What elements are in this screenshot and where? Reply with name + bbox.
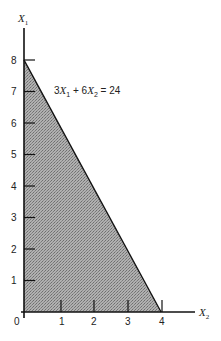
x-tick-labels: 0 1 2 3 4: [14, 316, 165, 327]
svg-text:1: 1: [11, 275, 17, 286]
constraint-equation-label: 3X1 + 6X2 = 24: [54, 84, 121, 98]
svg-text:5: 5: [11, 149, 17, 160]
lp-feasible-region-chart: 1 2 3 4 5 6 7 8 0 1 2 3 4 X1 X2 3X1 + 6X…: [0, 0, 221, 341]
svg-text:1: 1: [59, 316, 65, 327]
svg-text:2: 2: [11, 244, 17, 255]
svg-text:6: 6: [11, 118, 17, 129]
svg-text:8: 8: [11, 55, 17, 66]
y-axis-label: X1: [17, 12, 29, 27]
svg-text:3: 3: [125, 316, 131, 327]
svg-text:7: 7: [11, 86, 17, 97]
svg-text:4: 4: [159, 316, 165, 327]
svg-text:2: 2: [91, 316, 97, 327]
svg-text:3: 3: [11, 212, 17, 223]
svg-text:0: 0: [14, 316, 20, 327]
y-tick-labels: 1 2 3 4 5 6 7 8: [11, 55, 17, 287]
x-axis-label: X2: [198, 306, 210, 321]
svg-text:4: 4: [11, 181, 17, 192]
